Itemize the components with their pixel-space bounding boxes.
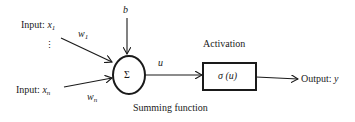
ellipsis: ⋮ — [45, 39, 54, 51]
activation-label: Activation — [203, 38, 245, 50]
output-arrow — [256, 77, 298, 79]
output-label: Output: y — [301, 73, 339, 85]
neuron-diagram: b Input: x1 w1 ⋮ Input: xn wn Σ u Activa… — [0, 0, 355, 122]
weight-n-label: wn — [87, 91, 97, 106]
weight-1-label: w1 — [78, 28, 88, 43]
summing-function-label: Summing function — [133, 102, 208, 114]
input-n-arrow — [64, 78, 112, 87]
input-1-label: Input: x1 — [21, 19, 55, 34]
bias-label: b — [123, 4, 128, 16]
activation-function: σ (u) — [218, 70, 237, 82]
sum-output-label: u — [158, 57, 163, 69]
summing-symbol: Σ — [124, 69, 130, 81]
input-n-label: Input: xn — [16, 84, 50, 99]
